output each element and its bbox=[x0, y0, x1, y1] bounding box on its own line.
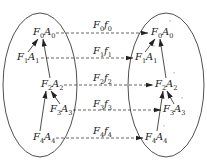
node-left-3: F3A3 bbox=[50, 104, 72, 114]
mapping-diagram: F0A0 F1A1 F2A2 F3A3 F4A4 F0A′0 F1A′1 F2A… bbox=[0, 0, 207, 168]
node-right-2: F2A′2 bbox=[155, 79, 173, 89]
left-edge-f4a4-to-f2a2 bbox=[40, 91, 46, 131]
node-right-1: F1A′1 bbox=[135, 52, 153, 62]
right-edge-f2a2-to-f0a0 bbox=[160, 39, 166, 78]
node-right-3: F3A′3 bbox=[163, 104, 181, 114]
mapping-label-1: F1f1 bbox=[93, 46, 112, 56]
node-left-4: F4A4 bbox=[33, 132, 55, 142]
mapping-label-4: F4f4 bbox=[93, 126, 112, 136]
node-left-2: F2A2 bbox=[41, 79, 63, 89]
mapping-label-3: F3f3 bbox=[93, 99, 112, 109]
node-right-0: F0A′0 bbox=[151, 27, 169, 37]
node-left-1: F1A1 bbox=[17, 52, 39, 62]
mapping-label-0: F0f0 bbox=[93, 20, 112, 30]
left-edge-f2a2-to-f0a0 bbox=[43, 39, 50, 78]
node-left-0: F0A0 bbox=[33, 27, 55, 37]
node-right-4: F4A′4 bbox=[145, 132, 163, 142]
mapping-label-2: F2f2 bbox=[93, 73, 112, 83]
